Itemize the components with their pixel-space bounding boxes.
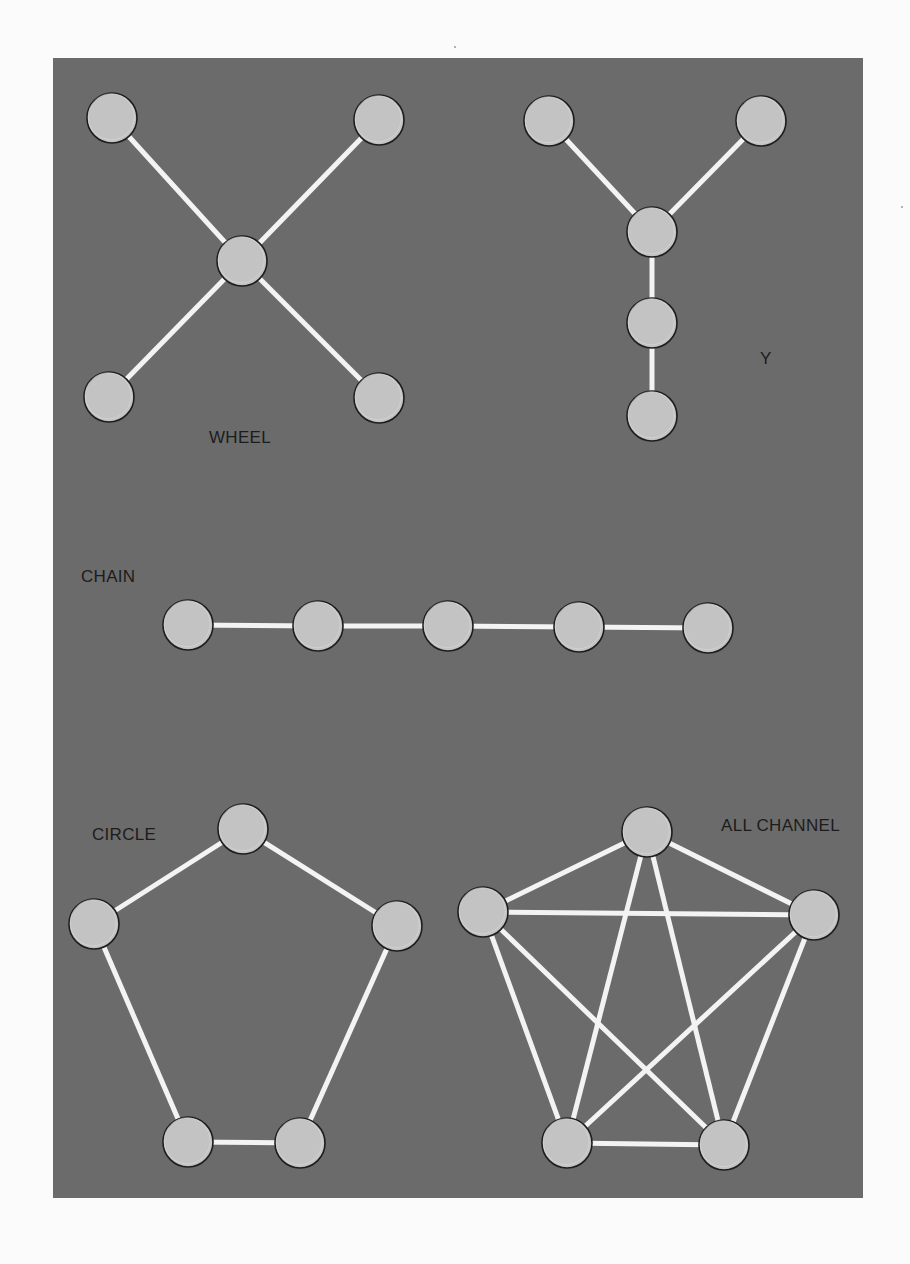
label-circle: CIRCLE (92, 825, 156, 844)
edge-line (483, 912, 814, 915)
label-y: Y (760, 349, 772, 368)
label-wheel: WHEEL (209, 428, 271, 447)
label-all-channel: ALL CHANNEL (721, 816, 840, 835)
scan-speck (454, 46, 456, 48)
scan-speck (901, 206, 903, 208)
communication-networks-figure: WHEEL Y CHAIN CIRCLE ALL CHANNEL (0, 0, 910, 1264)
label-chain: CHAIN (81, 567, 135, 586)
